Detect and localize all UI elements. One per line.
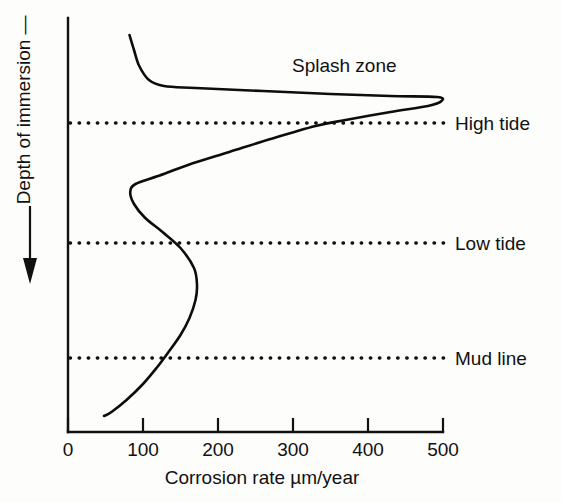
x-tick-label-100: 100 — [127, 439, 159, 460]
y-axis-title-group: Depth of immersion — — [13, 16, 37, 285]
zone-lines — [70, 123, 448, 358]
x-tick-label-500: 500 — [427, 439, 459, 460]
chart-canvas: 0 100 200 300 400 500 Corrosion rate µm/… — [0, 0, 561, 502]
y-axis-title: Depth of immersion — [13, 40, 34, 205]
zone-line-labels: High tide Low tide Mud line — [455, 113, 530, 369]
zone-label-mud-line: Mud line — [455, 348, 527, 369]
y-axis-arrow-head-icon — [23, 258, 37, 284]
x-tick-label-200: 200 — [202, 439, 234, 460]
x-axis-title: Corrosion rate µm/year — [165, 467, 360, 488]
annotation-splash-zone: Splash zone — [292, 55, 397, 76]
x-axis-ticks — [68, 418, 443, 432]
y-axis-title-prefix: — — [13, 16, 34, 35]
x-tick-label-300: 300 — [277, 439, 309, 460]
corrosion-rate-curve — [104, 35, 443, 416]
x-tick-label-400: 400 — [352, 439, 384, 460]
x-axis-tick-labels: 0 100 200 300 400 500 — [63, 439, 459, 460]
x-tick-label-0: 0 — [63, 439, 74, 460]
zone-label-low-tide: Low tide — [455, 233, 526, 254]
corrosion-depth-figure: 0 100 200 300 400 500 Corrosion rate µm/… — [0, 0, 561, 502]
zone-label-high-tide: High tide — [455, 113, 530, 134]
